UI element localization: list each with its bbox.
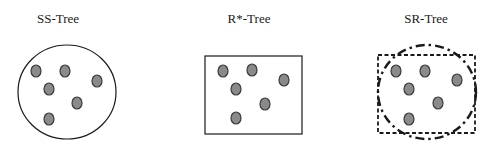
data-point [72, 97, 82, 109]
data-point [404, 83, 414, 95]
data-point [44, 113, 54, 125]
bounding-sphere [18, 45, 116, 139]
data-point [31, 65, 41, 77]
data-point [452, 74, 462, 86]
panel-r-star-tree: R*-Tree [205, 11, 302, 134]
data-point [231, 83, 241, 95]
data-point [279, 74, 289, 86]
panel-sr-tree: SR-Tree [378, 11, 476, 139]
data-point [231, 112, 241, 124]
panel-title-sr-tree: SR-Tree [404, 11, 448, 26]
data-point [433, 97, 443, 109]
data-point [218, 65, 228, 77]
data-point [44, 83, 54, 95]
data-point [404, 113, 414, 125]
data-points [31, 65, 102, 125]
panel-ss-tree: SS-Tree [18, 11, 116, 139]
bounding-sphere-dash-dot [378, 45, 476, 139]
data-points [391, 65, 462, 125]
panel-title-r-star-tree: R*-Tree [228, 11, 271, 26]
index-structure-diagram: SS-Tree R*-Tree SR-Tree [0, 0, 497, 147]
data-point [247, 64, 257, 76]
panel-title-ss-tree: SS-Tree [37, 11, 79, 26]
data-point [391, 65, 401, 77]
data-points [218, 64, 289, 124]
data-point [60, 65, 70, 77]
data-point [420, 65, 430, 77]
data-point [92, 75, 102, 87]
data-point [260, 98, 270, 110]
